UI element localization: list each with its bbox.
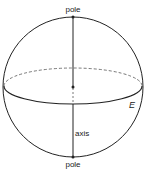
top-pole-label: pole [65, 5, 81, 14]
bottom-pole-label: pole [65, 160, 81, 169]
top-pole-dot [72, 16, 75, 19]
center-dot [72, 86, 75, 89]
equator-label: E [129, 100, 136, 110]
axis-label: axis [75, 129, 89, 138]
bottom-pole-dot [72, 156, 75, 159]
sphere-diagram: pole pole axis E [0, 0, 149, 182]
